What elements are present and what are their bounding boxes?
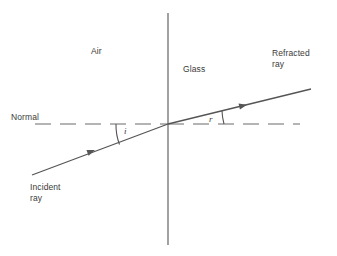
normal-label: Normal bbox=[11, 112, 39, 123]
refraction-diagram: Air Glass Refracted ray Normal Incident … bbox=[0, 0, 337, 256]
refracted-ray-label: Refracted ray bbox=[272, 48, 310, 69]
angle-of-refraction-label: r bbox=[209, 114, 213, 124]
angle-of-refraction-arc bbox=[222, 111, 224, 124]
incident-ray-label: Incident ray bbox=[30, 182, 61, 203]
medium-label-air: Air bbox=[91, 46, 102, 57]
refracted-ray-arrowhead bbox=[238, 102, 247, 110]
incident-ray-line bbox=[32, 124, 168, 175]
angle-of-incidence-label: i bbox=[124, 126, 127, 136]
angle-of-incidence-arc bbox=[116, 124, 120, 145]
medium-label-glass: Glass bbox=[183, 64, 205, 75]
refraction-diagram-canvas bbox=[0, 0, 337, 256]
